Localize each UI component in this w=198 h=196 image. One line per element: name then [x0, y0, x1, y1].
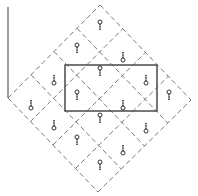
rotated-grid-diagram — [0, 0, 198, 196]
pin-up-icon — [144, 75, 148, 85]
pin-up-icon — [121, 145, 125, 155]
pin-up-icon — [121, 100, 125, 110]
pin-down-icon — [98, 20, 102, 30]
selection-rectangle — [65, 65, 157, 111]
pin-up-icon — [144, 123, 148, 133]
pin-up-icon — [52, 75, 56, 85]
pin-down-icon — [167, 90, 171, 100]
grid-line — [98, 100, 191, 192]
pin-down-icon — [98, 160, 102, 170]
diagram-canvas — [0, 0, 198, 196]
pin-up-icon — [52, 120, 56, 130]
pin-up-icon — [121, 52, 125, 62]
pin-down-icon — [98, 66, 102, 76]
pin-down-icon — [75, 43, 79, 53]
grid-line — [100, 5, 191, 100]
pin-down-icon — [98, 113, 102, 123]
pin-down-icon — [75, 90, 79, 100]
pin-up-icon — [29, 100, 33, 110]
grid-line — [77, 28, 168, 123]
pin-down-icon — [75, 135, 79, 145]
